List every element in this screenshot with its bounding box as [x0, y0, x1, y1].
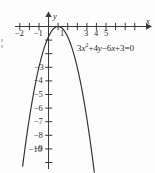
y-tick-label--6: −6 [34, 104, 43, 113]
x-tick-label-5: 5 [104, 29, 108, 38]
y-tick-label--10: −10 [29, 145, 42, 154]
y-axis-label: y [53, 12, 57, 21]
figure-canvas: −2 −1 1 3 4 5 −3 −4 −5 −6 −7 −8 −9 −10 y… [0, 0, 155, 173]
x-tick-label-1: 1 [60, 29, 64, 38]
y-tick-label--4: −4 [34, 76, 43, 85]
eq-minus-6: −6 [102, 43, 111, 53]
x-axis-label: x [146, 17, 150, 26]
x-tick-label-4: 4 [94, 29, 98, 38]
y-axis-arrowhead [45, 12, 51, 18]
y-tick-label--8: −8 [34, 131, 43, 140]
x-tick-label--2: −2 [15, 29, 24, 38]
y-tick-label--3: −3 [35, 63, 44, 72]
x-tick-label--1: −1 [34, 29, 43, 38]
parabola-plot [0, 0, 155, 173]
y-tick-label--5: −5 [34, 90, 43, 99]
eq-tail: +3=0 [115, 43, 134, 53]
x-tick-label-3: 3 [84, 29, 88, 38]
y-tick-label--7: −7 [34, 117, 43, 126]
eq-plus-4: +4 [88, 43, 97, 53]
equation-annotation: 3x2+4y−6x+3=0 [77, 41, 134, 53]
